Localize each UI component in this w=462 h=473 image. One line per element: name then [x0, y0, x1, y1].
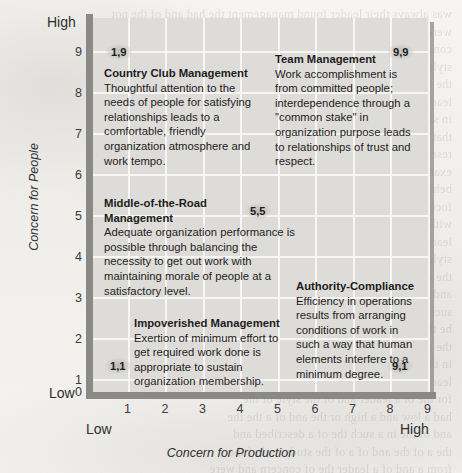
style-block-impoverished-management: Impoverished Management Exertion of mini… [134, 316, 294, 389]
x-tick-5: 5 [265, 402, 291, 416]
style-block-middle-of-the-road-management: Middle-of-the-Road Management Adequate o… [104, 196, 254, 298]
style-title: Country Club Management [104, 67, 248, 79]
x-tick-1: 1 [115, 402, 141, 416]
y-axis-low-label: Low [49, 385, 75, 401]
y-tick-6: 6 [56, 168, 82, 182]
style-body: Adequate organization performance is pos… [104, 225, 304, 298]
x-tick-6: 6 [302, 402, 328, 416]
y-tick-7: 7 [56, 127, 82, 141]
y-tick-3: 3 [56, 291, 82, 305]
x-axis-ticks: 1 2 3 4 5 6 7 8 9 [0, 402, 462, 420]
style-block-team-management: Team Management Work accomplishment is f… [275, 52, 415, 169]
x-tick-7: 7 [340, 402, 366, 416]
style-title: Impoverished Management [134, 317, 280, 329]
managerial-grid-figure: 9 8 7 6 5 4 3 2 1 0 1 2 3 4 5 6 7 8 9 Hi… [0, 0, 462, 473]
y-tick-9: 9 [56, 45, 82, 59]
x-tick-8: 8 [377, 402, 403, 416]
style-body: Efficiency in operations results from ar… [296, 294, 416, 382]
y-tick-2: 2 [56, 332, 82, 346]
y-axis-high-label: High [47, 14, 76, 30]
y-tick-8: 8 [56, 86, 82, 100]
x-axis-high-label: High [400, 421, 429, 437]
style-title: Team Management [275, 53, 376, 65]
x-tick-3: 3 [190, 402, 216, 416]
gridline-vertical [428, 18, 430, 392]
x-tick-2: 2 [152, 402, 178, 416]
coordinate-badge-1-9: 1,9 [106, 44, 132, 60]
x-axis-title: Concern for Production [0, 446, 462, 460]
coordinate-badge-1-1: 1,1 [105, 358, 131, 374]
style-body: Exertion of minimum effort to get requir… [134, 331, 294, 389]
x-tick-9: 9 [415, 402, 441, 416]
scanned-page: was always their leader found management… [0, 0, 462, 473]
style-body: Work accomplishment is from committed pe… [275, 67, 415, 169]
x-tick-4: 4 [227, 402, 253, 416]
style-title: Middle-of-the-Road Management [104, 197, 207, 224]
style-block-authority-compliance: Authority-Compliance Efficiency in opera… [296, 279, 416, 381]
style-body: Thoughtful attention to the needs of peo… [104, 81, 254, 169]
style-block-country-club-management: Country Club Management Thoughtful atten… [104, 66, 254, 168]
x-axis-line [92, 392, 436, 399]
y-tick-4: 4 [56, 250, 82, 264]
gridline-horizontal [92, 174, 430, 176]
style-title: Authority-Compliance [296, 280, 414, 292]
y-tick-5: 5 [56, 209, 82, 223]
y-axis-line [86, 14, 93, 399]
y-axis-title: Concern for People [27, 127, 41, 267]
x-axis-low-label: Low [86, 421, 112, 437]
